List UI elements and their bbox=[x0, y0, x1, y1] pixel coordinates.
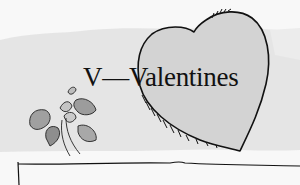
illustration-title: V—Valentines bbox=[83, 62, 238, 92]
illustration-canvas bbox=[0, 0, 300, 185]
ground-line bbox=[18, 162, 300, 185]
